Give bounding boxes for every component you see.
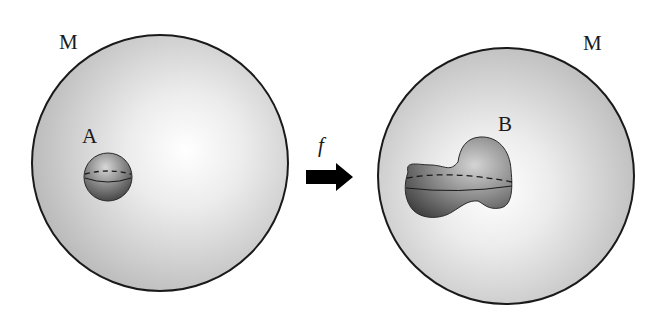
map-label: f <box>318 135 324 156</box>
diagram-canvas <box>0 0 660 326</box>
manifold-left <box>32 35 288 291</box>
set-a-label: A <box>82 126 97 147</box>
map-arrow-icon <box>306 163 353 191</box>
set-b-label: B <box>498 114 512 135</box>
manifold-right-label: M <box>583 33 602 54</box>
manifold-left-label: M <box>59 32 78 53</box>
set-a-sphere <box>84 153 132 201</box>
